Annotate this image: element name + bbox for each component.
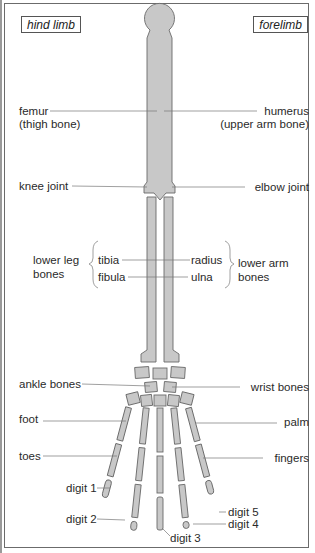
label-ankle-bones: ankle bones: [19, 377, 81, 391]
label-knee-joint: knee joint: [19, 179, 68, 193]
carpal: [145, 381, 158, 392]
fibula-ulna-bone: [164, 197, 179, 362]
label-digit-2: digit 2: [66, 512, 97, 526]
carpal: [135, 367, 150, 379]
left-brace: [89, 241, 98, 288]
label-foot: foot: [19, 412, 38, 426]
carpal: [126, 392, 140, 406]
tibia-radius-bone: [141, 197, 156, 362]
label-digit-1: digit 1: [66, 481, 97, 495]
label-thigh-bone: (thigh bone): [19, 117, 80, 131]
label-lower-arm-bones: bones: [238, 270, 269, 284]
carpal: [154, 395, 166, 406]
label-ulna: ulna: [191, 270, 213, 284]
label-elbow-joint: elbow joint: [255, 180, 309, 194]
label-wrist-bones: wrist bones: [251, 380, 309, 394]
label-humerus: humerus: [264, 104, 309, 118]
label-toes: toes: [19, 449, 41, 463]
label-digit-4: digit 4: [228, 517, 259, 531]
right-brace: [225, 241, 234, 288]
carpal: [153, 368, 167, 379]
femur-humerus-bone: [144, 3, 175, 200]
carpal: [171, 367, 186, 379]
label-lower-arm: lower arm: [238, 256, 288, 270]
label-tibia: tibia: [98, 253, 119, 267]
label-lower-leg: lower leg: [33, 253, 79, 267]
label-radius: radius: [191, 253, 222, 267]
label-femur: femur: [19, 104, 48, 118]
label-upper-arm-bone: (upper arm bone): [220, 117, 309, 131]
forelimb-tag: forelimb: [253, 16, 308, 33]
label-palm: palm: [284, 415, 309, 429]
label-fingers: fingers: [274, 451, 309, 465]
label-lower-leg-bones: bones: [33, 267, 64, 281]
carpal: [141, 394, 153, 406]
label-digit-3: digit 3: [170, 531, 201, 545]
label-fibula: fibula: [98, 270, 126, 284]
hind-limb-tag: hind limb: [21, 16, 81, 33]
carpal: [180, 392, 194, 406]
label-digit-5: digit 5: [228, 505, 259, 519]
carpal: [167, 395, 179, 407]
